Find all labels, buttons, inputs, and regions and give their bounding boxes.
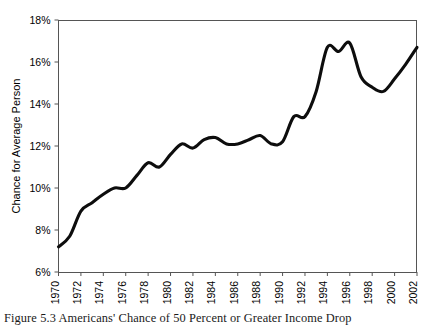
y-tick-label: 8% [35, 224, 50, 236]
x-tick-label: 1984 [205, 281, 217, 305]
figure-caption: Figure 5.3 Americans' Chance of 50 Perce… [4, 311, 436, 326]
x-tick-label: 1972 [71, 281, 83, 305]
x-tick-label: 1998 [362, 281, 374, 305]
x-tick-label: 1974 [93, 281, 105, 305]
x-tick-label: 1996 [340, 281, 352, 305]
y-tick-label: 14% [29, 98, 50, 110]
y-tick-label: 6% [35, 266, 50, 278]
x-tick-label: 1986 [228, 281, 240, 305]
x-tick-label: 1990 [273, 281, 285, 305]
data-series-line [59, 42, 418, 247]
x-tick-label: 2000 [385, 281, 397, 305]
chart-figure: 6%8%10%12%14%16%18% 19701972197419761978… [0, 0, 440, 305]
x-tick-label: 1978 [138, 281, 150, 305]
y-axis-label: Chance for Average Person [10, 79, 22, 214]
x-tick-label: 1994 [317, 281, 329, 305]
x-tick-label: 1982 [183, 281, 195, 305]
x-tick-label: 1980 [161, 281, 173, 305]
x-tick-label: 1988 [250, 281, 262, 305]
y-tick-label: 12% [29, 140, 50, 152]
x-tick-label: 1970 [49, 281, 61, 305]
x-tick-label: 1976 [116, 281, 128, 305]
x-axis-ticks: 1970197219741976197819801982198419861988… [49, 272, 420, 304]
x-tick-label: 2002 [407, 281, 419, 305]
y-tick-label: 10% [29, 182, 50, 194]
y-tick-label: 16% [29, 56, 50, 68]
y-tick-label: 18% [29, 14, 50, 26]
x-tick-label: 1992 [295, 281, 307, 305]
figure-page: 6%8%10%12%14%16%18% 19701972197419761978… [0, 0, 440, 331]
line-chart: 6%8%10%12%14%16%18% 19701972197419761978… [0, 0, 440, 305]
y-axis-ticks: 6%8%10%12%14%16%18% [29, 14, 58, 278]
